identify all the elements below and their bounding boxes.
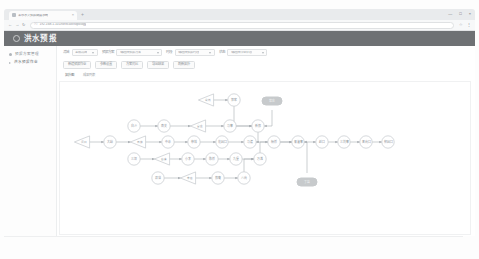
graph-edge	[234, 106, 252, 126]
button-label: 参数设置	[100, 63, 112, 66]
reload-icon[interactable]: ↻	[22, 23, 25, 27]
browser-navigation-bar: ← → ↻ ⓘ 192.168.1.101/forecast/topology …	[4, 20, 475, 31]
back-icon[interactable]: ←	[8, 23, 12, 27]
chevron-down-icon	[92, 52, 94, 54]
graph-node[interactable]: 祭城	[188, 136, 200, 148]
scheme-compare-button[interactable]: 方案对比	[121, 61, 143, 69]
dot-icon	[9, 53, 12, 56]
graph-node[interactable]: 官庄	[190, 120, 205, 132]
graph-node-label: 郭家	[231, 97, 237, 102]
graph-edge	[304, 142, 307, 173]
browser-tab[interactable]: 某市水文预报调度系统 ×	[9, 11, 77, 21]
graph-node[interactable]: 后寨	[154, 153, 169, 165]
graph-node[interactable]: 马寨	[224, 120, 236, 132]
graph-node-label: 常庄	[269, 98, 275, 103]
new-forecast-job-button[interactable]: 新建预报作业	[63, 61, 91, 69]
graph-node[interactable]: 丁店	[297, 178, 317, 186]
filter-label: 预报方案	[102, 51, 114, 55]
tab-topology[interactable]: 拓扑图	[65, 74, 74, 77]
caret-right-icon	[9, 62, 11, 64]
window-close-icon[interactable]: ×	[469, 12, 471, 16]
filter-toolbar: 流域 全部流域 预报方案 请选择预报方案 时段 请选择	[57, 46, 475, 59]
address-bar[interactable]: ⓘ 192.168.1.101/forecast/topology	[30, 22, 454, 29]
tab-result-list[interactable]: 成果列表	[83, 74, 95, 77]
graph-node[interactable]: 九堡	[230, 153, 242, 165]
graph-node[interactable]: 新郑	[252, 120, 264, 132]
graph-node-label: 黑岗口	[362, 139, 371, 144]
refresh-topology-button[interactable]: 刷新拓扑	[173, 61, 195, 69]
graph-node-label: 大峪	[107, 139, 113, 144]
lock-icon: ⓘ	[34, 23, 37, 26]
browser-toolbar-right: ☆ ⋮	[459, 23, 471, 27]
graph-node-label: 祭城	[191, 139, 197, 144]
app-header: 洪水预报	[4, 31, 475, 46]
graph-node[interactable]: 陈桥	[206, 153, 218, 165]
graph-node[interactable]: 小李	[182, 153, 194, 165]
page-divider	[4, 236, 463, 237]
graph-edge	[256, 132, 258, 142]
graph-node[interactable]: 柳园口	[382, 136, 394, 148]
graph-node-label: 新郑	[255, 123, 261, 128]
graph-node[interactable]: 常庄	[262, 97, 282, 105]
topology-canvas[interactable]: 白沙南关官庄马寨新郑尖岗郭家常庄丁店河口大峪石佛中牟祭城花园口马渡杨桥来潼寨赵口…	[59, 81, 471, 235]
graph-node-label: 赵口	[319, 139, 325, 144]
filter-basin: 流域 全部流域	[63, 49, 98, 56]
graph-node[interactable]: 双洎	[152, 172, 164, 184]
graph-node[interactable]: 马渡	[244, 136, 256, 148]
maximize-icon[interactable]: □	[459, 12, 461, 16]
new-tab-button[interactable]: +	[81, 12, 84, 17]
graph-node-label: 陈桥	[209, 156, 215, 161]
graph-node[interactable]: 万滩	[254, 153, 266, 165]
graph-node-label: 官庄	[197, 124, 203, 128]
graph-node[interactable]: 河口	[74, 136, 89, 148]
period-select[interactable]: 请选择预报时段	[175, 49, 215, 56]
graph-node[interactable]: 来潼寨	[292, 136, 304, 148]
graph-node-label: 马寨	[227, 123, 233, 128]
sidebar-item-label: 洪水预报作业	[14, 61, 38, 65]
sidebar-item-forecast-job[interactable]: 洪水预报作业	[4, 59, 56, 68]
bookmark-star-icon[interactable]: ☆	[459, 23, 463, 27]
graph-node[interactable]: 南关	[158, 120, 170, 132]
filter-label: 流域	[63, 51, 69, 55]
browser-menu-icon[interactable]: ⋮	[467, 23, 471, 27]
graph-node-label: 尖岗	[205, 98, 211, 102]
minimize-icon[interactable]: —	[448, 12, 452, 16]
select-value: 全部流域	[75, 51, 87, 54]
filter-status: 状态 请选择作业状态	[219, 49, 268, 56]
button-label: 方案对比	[126, 63, 138, 66]
graph-node[interactable]: 杨桥	[268, 136, 280, 148]
graph-node[interactable]: 郑庵	[212, 172, 224, 184]
application-window: 洪水预报 预报方案管理 洪水预报作业 流域 全部流域	[4, 31, 475, 236]
basin-select[interactable]: 全部流域	[72, 49, 98, 56]
sidebar-item-scheme-management[interactable]: 预报方案管理	[4, 50, 56, 59]
graph-node[interactable]: 尖岗	[198, 94, 213, 106]
scheme-select[interactable]: 请选择预报方案	[116, 49, 162, 56]
graph-node[interactable]: 三坝	[128, 153, 140, 165]
status-select[interactable]: 请选择作业状态	[227, 49, 267, 56]
graph-node-label: 后寨	[161, 157, 167, 161]
button-label: 刷新拓扑	[178, 63, 190, 66]
graph-node[interactable]: 石佛	[130, 136, 145, 148]
graph-node[interactable]: 辛店	[180, 172, 195, 184]
export-results-button[interactable]: 导出结果	[147, 61, 169, 69]
parameter-settings-button[interactable]: 参数设置	[95, 61, 117, 69]
graph-node[interactable]: 大峪	[104, 136, 116, 148]
address-bar-url: 192.168.1.101/forecast/topology	[39, 23, 86, 26]
filter-scheme: 预报方案 请选择预报方案	[102, 49, 163, 56]
graph-node[interactable]: 中牟	[162, 136, 174, 148]
graph-node-label: 三刘寨	[340, 139, 349, 144]
close-icon[interactable]: ×	[72, 13, 74, 17]
forward-icon[interactable]: →	[15, 23, 19, 27]
graph-node[interactable]: 花园口	[216, 136, 228, 148]
graph-node[interactable]: 白沙	[128, 120, 140, 132]
graph-node[interactable]: 郭家	[228, 94, 240, 106]
graph-node-label: 小李	[185, 156, 191, 161]
action-button-bar: 新建预报作业 参数设置 方案对比 导出结果 刷新拓扑	[57, 59, 475, 71]
graph-node[interactable]: 八岗	[238, 172, 250, 184]
graph-node-label: 南关	[161, 123, 167, 128]
graph-node-label: 来潼寨	[294, 139, 303, 144]
graph-node[interactable]: 赵口	[316, 136, 328, 148]
graph-node[interactable]: 三刘寨	[338, 136, 350, 148]
button-label: 新建预报作业	[68, 63, 86, 66]
graph-node[interactable]: 黑岗口	[360, 136, 372, 148]
